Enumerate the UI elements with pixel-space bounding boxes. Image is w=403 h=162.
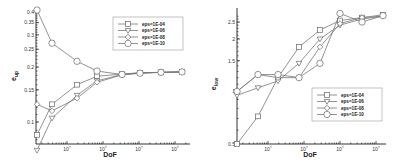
square-marker-icon [325, 93, 330, 98]
square-marker-icon [297, 45, 302, 50]
diamond-marker-icon [34, 101, 40, 107]
series-eps=1E-08 [234, 13, 386, 94]
legend-label: eps=1E-10 [341, 112, 364, 117]
legend-label: eps=1E-08 [341, 106, 364, 111]
y-tick-label: 0.25 [24, 46, 34, 52]
legend: eps=1E-04eps=1E-06eps=1E-08eps=1E-10 [113, 17, 183, 50]
circle-marker-icon [137, 70, 143, 76]
y-tick-label: 1.5 [228, 58, 235, 64]
legend: eps=1E-04eps=1E-06eps=1E-08eps=1E-10 [312, 88, 382, 121]
y-tick-label: 0.4 [27, 9, 34, 15]
chart-e-low-svg: 2.521.510.510?10?10?10? eps=1E-04eps=1E-… [200, 0, 403, 162]
legend-label: eps=1E-04 [142, 22, 165, 27]
circle-marker-icon [49, 40, 55, 46]
circle-marker-icon [119, 71, 125, 77]
y-tick-label: 2 [232, 36, 235, 42]
circle-marker-icon [34, 7, 40, 13]
circle-marker-icon [380, 12, 386, 18]
legend-label: eps=1E-10 [142, 41, 165, 46]
x-tick-label: 10? [336, 146, 344, 152]
svg-text:eup: eup [10, 71, 19, 81]
circle-marker-icon [255, 71, 261, 77]
x-tick-label: 10? [372, 146, 380, 152]
legend-label: eps=1E-06 [341, 99, 364, 104]
svg-text:elow: elow [210, 78, 219, 90]
legend-label: eps=1E-06 [142, 28, 165, 33]
square-marker-icon [126, 22, 131, 27]
x-tick-label: 10? [171, 146, 179, 152]
triangle-marker-icon [34, 148, 40, 153]
x-tick-label: 10? [63, 146, 71, 152]
x-axis-label: DoF [103, 151, 117, 158]
circle-marker-icon [324, 111, 330, 117]
circle-marker-icon [158, 69, 164, 75]
circle-marker-icon [359, 19, 365, 25]
circle-marker-icon [125, 40, 131, 46]
y-tick-label: 0.2 [27, 64, 34, 70]
square-marker-icon [235, 142, 240, 147]
series-eps=1E-06 [34, 70, 185, 153]
y-tick-label: 2.5 [228, 19, 235, 25]
series-eps=1E-10 [234, 10, 386, 94]
triangle-marker-icon [49, 116, 55, 121]
square-marker-icon [75, 82, 80, 87]
circle-marker-icon [74, 58, 80, 64]
y-tick-label: 0.1 [27, 119, 34, 125]
y-tick-label: 0.3 [27, 32, 34, 38]
series-eps=1E-06 [234, 14, 386, 98]
x-tick-label: 10? [264, 146, 272, 152]
y-tick-label: 0.15 [24, 87, 34, 93]
chart-e-up: 0.40.350.30.250.20.150.110?10?10?10? eps… [0, 0, 200, 162]
y-axis-label: eup [10, 71, 19, 81]
y-tick-label: 0.5 [228, 141, 235, 147]
plot-series [234, 10, 386, 146]
square-marker-icon [256, 114, 261, 119]
series-eps=1E-04 [35, 70, 185, 138]
square-marker-icon [35, 132, 40, 137]
chart-e-up-svg: 0.40.350.30.250.20.150.110?10?10?10? eps… [0, 0, 200, 162]
chart-e-low: 2.521.510.510?10?10?10? eps=1E-04eps=1E-… [200, 0, 403, 162]
series-eps=1E-08 [34, 69, 185, 114]
square-marker-icon [318, 28, 323, 33]
circle-marker-icon [296, 74, 302, 80]
square-marker-icon [50, 102, 55, 107]
circle-marker-icon [94, 68, 100, 74]
series-eps=1E-04 [235, 12, 386, 146]
legend-label: eps=1E-04 [341, 93, 364, 98]
circle-marker-icon [317, 60, 323, 66]
x-tick-label: 10? [135, 146, 143, 152]
circle-marker-icon [234, 88, 240, 94]
legend-label: eps=1E-08 [142, 35, 165, 40]
x-axis-label: DoF [303, 151, 317, 158]
circle-marker-icon [179, 69, 185, 75]
y-axis-label: elow [210, 78, 219, 90]
y-tick-label: 0.35 [24, 19, 34, 25]
circle-marker-icon [337, 10, 343, 16]
circle-marker-icon [275, 71, 281, 77]
